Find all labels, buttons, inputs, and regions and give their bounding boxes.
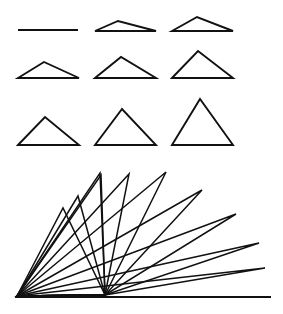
triangle-figure-svg [0, 0, 283, 314]
figure-root [0, 0, 283, 314]
figure-background [0, 0, 283, 314]
